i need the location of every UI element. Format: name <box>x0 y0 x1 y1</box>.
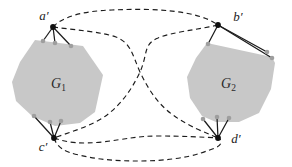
dashed-curve-c-d-mid <box>54 136 218 143</box>
attachment-vertex <box>201 117 206 122</box>
attachment-vertex <box>270 56 275 61</box>
label-b-prime: b′ <box>233 9 243 24</box>
figure-canvas: a′ b′ c′ d′ G1 G2 <box>0 0 292 167</box>
label-g2-subscript: 2 <box>231 83 236 93</box>
label-g2-main: G <box>221 76 231 91</box>
vertex-d-prime <box>215 135 221 141</box>
attachment-vertex <box>69 44 74 49</box>
attachment-vertex <box>265 50 270 55</box>
attachment-vertex <box>48 120 53 125</box>
label-a-prime: a′ <box>39 8 49 23</box>
attachment-vertex <box>215 115 220 120</box>
label-d-prime: d′ <box>231 131 241 146</box>
attachment-vertex <box>59 119 64 124</box>
attachment-vertex <box>206 42 211 47</box>
vertex-a-prime <box>50 24 56 30</box>
label-g1-subscript: 1 <box>61 83 66 93</box>
attachment-vertex <box>32 114 37 119</box>
vertex-c-prime <box>51 135 57 141</box>
attachment-vertex <box>41 39 46 44</box>
attachment-vertex <box>53 41 58 46</box>
graph-amalgamation-diagram: a′ b′ c′ d′ G1 G2 <box>0 0 292 167</box>
label-c-prime: c′ <box>39 139 48 154</box>
attachment-vertex <box>227 116 232 121</box>
edge-b-1 <box>208 25 218 44</box>
vertex-b-prime <box>215 22 221 28</box>
dashed-curve-a-b-top <box>53 9 218 27</box>
label-g1-main: G <box>51 76 61 91</box>
dashed-curve-c-d-bottom <box>54 138 221 161</box>
